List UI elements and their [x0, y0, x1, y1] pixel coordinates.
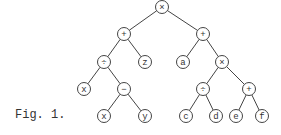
tree-edges — [88, 11, 259, 111]
svg-text:e: e — [233, 112, 238, 122]
tree-node: x — [78, 83, 91, 96]
tree-edge — [207, 39, 219, 56]
svg-text:d: d — [213, 112, 218, 122]
tree-node: z — [139, 56, 152, 69]
tree-edge — [252, 95, 259, 110]
svg-text:f: f — [259, 112, 264, 122]
figure-caption: Fig. 1. — [15, 108, 65, 122]
svg-text:−: − — [121, 85, 126, 95]
tree-node: + — [243, 83, 256, 96]
tree-node: x — [98, 110, 111, 123]
svg-text:c: c — [183, 112, 188, 122]
svg-text:÷: ÷ — [101, 58, 106, 68]
tree-edge — [206, 95, 213, 110]
tree-node: − — [118, 83, 131, 96]
tree-node: + — [118, 28, 131, 41]
svg-text:+: + — [121, 30, 126, 40]
svg-text:a: a — [180, 58, 186, 68]
tree-edge — [187, 39, 199, 56]
tree-node: d — [210, 110, 223, 123]
tree-nodes: ×+÷zx−xy+a×÷+cdef — [78, 1, 269, 123]
svg-text:x: x — [101, 112, 106, 122]
tree-node: a — [177, 56, 190, 69]
tree-node: ÷ — [98, 56, 111, 69]
tree-edge — [128, 39, 141, 57]
tree-edge — [189, 95, 199, 111]
svg-text:+: + — [200, 30, 205, 40]
tree-node: c — [180, 110, 193, 123]
svg-text:×: × — [219, 58, 224, 68]
tree-node: y — [139, 110, 152, 123]
svg-text:z: z — [142, 58, 147, 68]
tree-edge — [108, 67, 120, 84]
tree-edge — [108, 94, 120, 111]
tree-node: e — [230, 110, 243, 123]
tree-edge — [88, 67, 100, 84]
svg-text:+: + — [246, 85, 251, 95]
tree-edge — [128, 94, 141, 111]
tree-edge — [167, 11, 197, 31]
tree-node: + — [197, 28, 210, 41]
svg-text:y: y — [142, 112, 148, 122]
tree-node: × — [156, 1, 169, 14]
tree-edge — [227, 67, 245, 85]
svg-text:÷: ÷ — [200, 85, 205, 95]
tree-edge — [129, 11, 156, 30]
tree-edge — [207, 67, 219, 83]
tree-node: ÷ — [197, 83, 210, 96]
svg-text:x: x — [81, 85, 86, 95]
tree-edge — [108, 39, 120, 56]
svg-text:×: × — [159, 3, 164, 13]
tree-node: × — [216, 56, 229, 69]
tree-node: f — [256, 110, 269, 123]
tree-edge — [239, 95, 246, 110]
